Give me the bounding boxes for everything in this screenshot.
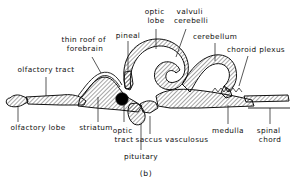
label-striatum: striatum <box>79 123 113 132</box>
olfactory-tract-shape <box>26 95 86 105</box>
label-olfactory-lobe: olfactory lobe <box>10 123 65 132</box>
label-pineal: pineal <box>116 31 140 40</box>
label-optic-tract: optic tract <box>113 126 135 144</box>
leader-choroid-plexus <box>239 56 248 86</box>
olfactory-lobe-shape <box>6 95 28 107</box>
cerebellum-shape <box>182 55 237 92</box>
label-saccus-vasculosus: saccus vasculosus <box>136 135 209 144</box>
optic-tract-dot <box>116 93 128 105</box>
leader-thin-roof-of-forebrain <box>92 57 101 73</box>
labels: olfactory tract olfactory lobe striatum … <box>10 7 285 161</box>
label-spinal-chord: spinal chord <box>257 126 283 144</box>
label-valvuli-cerebelli: valvuli cerebelli <box>174 7 208 25</box>
label-medulla: medulla <box>212 126 244 135</box>
label-choroid-plexus: choroid plexus <box>227 45 285 54</box>
label-pituitary: pituitary <box>124 152 158 161</box>
label-olfactory-tract: olfactory tract <box>18 65 75 74</box>
label-cerebellum: cerebellum <box>193 32 237 41</box>
medulla-shape <box>156 89 254 108</box>
brain-diagram-figure: olfactory tract olfactory lobe striatum … <box>0 0 293 185</box>
spinal-chord-shape <box>244 95 289 102</box>
label-thin-roof-of-forebrain: thin roof of forebrain <box>61 35 108 53</box>
label-optic-lobe: optic lobe <box>145 7 167 25</box>
figure-caption: (b) <box>140 169 153 178</box>
